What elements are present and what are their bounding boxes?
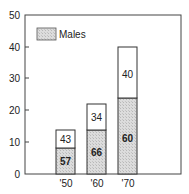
bar-label-top: 40 bbox=[122, 69, 134, 80]
y-tick-label: 50 bbox=[9, 10, 21, 21]
y-tick-label: 30 bbox=[9, 73, 21, 84]
bar-label-top: 34 bbox=[91, 112, 103, 123]
bar-1960: 34 66 bbox=[87, 104, 106, 174]
x-tick-label: '70 bbox=[121, 178, 134, 189]
bar-label-bottom: 66 bbox=[91, 147, 103, 158]
legend-swatch-males bbox=[37, 28, 56, 40]
x-tick-label: '60 bbox=[90, 178, 103, 189]
bar-label-bottom: 57 bbox=[60, 156, 72, 167]
y-tick-label: 40 bbox=[9, 42, 21, 53]
y-axis: 0 10 20 30 40 50 bbox=[9, 10, 29, 180]
x-axis: '50 '60 '70 bbox=[59, 178, 134, 189]
bar-label-top: 43 bbox=[60, 134, 72, 145]
y-tick-label: 0 bbox=[14, 169, 20, 180]
y-tick-label: 10 bbox=[9, 137, 21, 148]
legend: Males bbox=[37, 28, 86, 40]
stacked-bar-chart: 0 10 20 30 40 50 Males 43 57 34 66 40 60… bbox=[0, 0, 189, 194]
x-tick-label: '50 bbox=[59, 178, 72, 189]
bar-1970: 40 60 bbox=[118, 47, 137, 174]
y-tick-label: 20 bbox=[9, 105, 21, 116]
bar-label-bottom: 60 bbox=[122, 133, 134, 144]
bar-1950: 43 57 bbox=[56, 130, 75, 174]
legend-label-males: Males bbox=[59, 29, 86, 40]
